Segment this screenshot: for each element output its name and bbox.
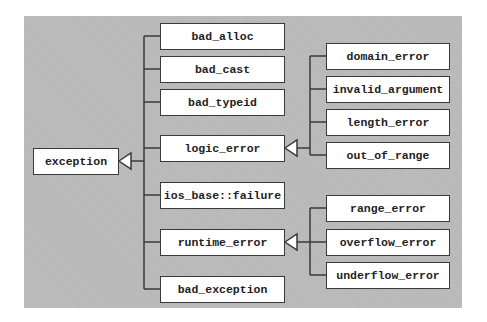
class-range-error: range_error	[326, 195, 450, 222]
class-overflow-error: overflow_error	[326, 229, 450, 256]
class-logic-error: logic_error	[160, 135, 285, 162]
class-length-error: length_error	[326, 109, 450, 136]
class-out-of-range: out_of_range	[326, 142, 450, 169]
class-ios-base-failure: ios_base::failure	[160, 182, 285, 209]
class-runtime-error: runtime_error	[160, 229, 285, 256]
class-bad-cast: bad_cast	[160, 56, 285, 83]
class-domain-error: domain_error	[326, 43, 450, 70]
class-exception: exception	[33, 148, 119, 175]
class-underflow-error: underflow_error	[326, 262, 450, 289]
inheritance-arrow-icon	[285, 140, 297, 156]
inheritance-arrow-icon	[119, 153, 131, 169]
class-bad-typeid: bad_typeid	[160, 89, 285, 116]
class-bad-alloc: bad_alloc	[160, 23, 285, 50]
inheritance-arrow-icon	[285, 234, 297, 250]
class-invalid-argument: invalid_argument	[326, 76, 450, 103]
class-bad-exception: bad_exception	[160, 276, 285, 303]
